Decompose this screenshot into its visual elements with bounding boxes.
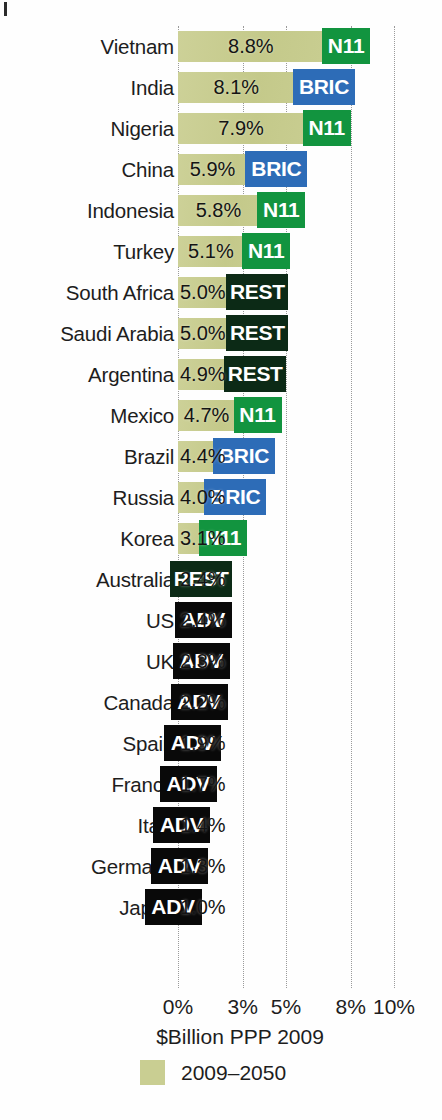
- row-label-brazil: Brazil: [124, 436, 174, 477]
- row-label-vietnam: Vietnam: [101, 26, 174, 67]
- bar-row: UKADV2.3%: [0, 641, 442, 682]
- group-tag-n11: N11: [322, 28, 370, 64]
- bar-value-label: 5.0%: [180, 277, 226, 308]
- row-label-uk: UK: [146, 641, 174, 682]
- x-tick-8pct: 8%: [336, 995, 366, 1019]
- bar-value-label: 1.9%: [180, 728, 226, 759]
- bar-row: RussiaBRIC4.0%: [0, 477, 442, 518]
- chart-legend: 2009–2050: [140, 1060, 286, 1085]
- x-tick-0pct: 0%: [163, 995, 193, 1019]
- bar-value-label: 2.4%: [180, 605, 226, 636]
- group-tag-bric: BRIC: [245, 151, 307, 187]
- row-label-china: China: [121, 149, 174, 190]
- bar-row: South AfricaREST5.0%: [0, 272, 442, 313]
- bar-row: KoreaN113.1%: [0, 518, 442, 559]
- bar-value-label: 7.9%: [218, 113, 264, 144]
- group-tag-rest: REST: [226, 274, 288, 310]
- bar-row: CanadaADV2.2%: [0, 682, 442, 723]
- bar-row: GermanyADV1.3%: [0, 846, 442, 887]
- group-tag-rest: REST: [226, 315, 288, 351]
- group-tag-bric: BRIC: [293, 69, 355, 105]
- row-label-indonesia: Indonesia: [87, 190, 174, 231]
- legend-swatch-2009-2050: [140, 1060, 165, 1085]
- bar-value-label: 2.4%: [180, 564, 226, 595]
- bar-value-label: 4.0%: [180, 482, 226, 513]
- x-axis-title: $Billion PPP 2009: [0, 1025, 442, 1049]
- row-label-australia: Australia: [96, 559, 174, 600]
- row-label-mexico: Mexico: [110, 395, 174, 436]
- bar-row: ArgentinaREST4.9%: [0, 354, 442, 395]
- bar-row: IndiaBRIC8.1%: [0, 67, 442, 108]
- row-label-us: US: [146, 600, 174, 641]
- x-tick-10pct: 10%: [373, 995, 415, 1019]
- bar-value-label: 2.3%: [180, 646, 226, 677]
- row-label-korea: Korea: [120, 518, 174, 559]
- bar-value-label: 1.0%: [180, 892, 226, 923]
- bar-row: SpainADV1.9%: [0, 723, 442, 764]
- row-label-argentina: Argentina: [88, 354, 174, 395]
- bar-row: IndonesiaN115.8%: [0, 190, 442, 231]
- bar-value-label: 1.3%: [180, 851, 226, 882]
- group-tag-rest: REST: [224, 356, 286, 392]
- bar-row: BrazilBRIC4.4%: [0, 436, 442, 477]
- bar-value-label: 4.7%: [184, 400, 230, 431]
- group-tag-n11: N11: [303, 110, 351, 146]
- bar-row: AustraliaREST2.4%: [0, 559, 442, 600]
- plot-area: VietnamN118.8%IndiaBRIC8.1%NigeriaN117.9…: [0, 26, 442, 988]
- row-label-south-africa: South Africa: [66, 272, 174, 313]
- bar-row: ChinaBRIC5.9%: [0, 149, 442, 190]
- bar-value-label: 4.4%: [180, 441, 226, 472]
- bar-row: USADV2.4%: [0, 600, 442, 641]
- bar-value-label: 8.8%: [228, 31, 274, 62]
- bar-row: NigeriaN117.9%: [0, 108, 442, 149]
- legend-label-2009-2050: 2009–2050: [181, 1061, 286, 1085]
- bar-value-label: 1.4%: [180, 810, 226, 841]
- bar-row: ItalyADV1.4%: [0, 805, 442, 846]
- group-tag-n11: N11: [242, 233, 290, 269]
- bar-row: VietnamN118.8%: [0, 26, 442, 67]
- row-label-india: India: [131, 67, 174, 108]
- row-label-turkey: Turkey: [113, 231, 174, 272]
- group-tag-n11: N11: [234, 397, 282, 433]
- bar-row: JapanADV1.0%: [0, 887, 442, 928]
- bar-value-label: 4.9%: [180, 359, 226, 390]
- row-label-canada: Canada: [103, 682, 174, 723]
- bar-row: FranceADV1.7%: [0, 764, 442, 805]
- row-label-russia: Russia: [113, 477, 174, 518]
- bar-value-label: 3.1%: [180, 523, 226, 554]
- row-label-saudi-arabia: Saudi Arabia: [60, 313, 174, 354]
- bar-value-label: 5.8%: [196, 195, 242, 226]
- bar-row: MexicoN114.7%: [0, 395, 442, 436]
- row-label-nigeria: Nigeria: [110, 108, 174, 149]
- bar-value-label: 2.2%: [180, 687, 226, 718]
- bar-value-label: 5.1%: [188, 236, 234, 267]
- group-tag-n11: N11: [257, 192, 305, 228]
- x-tick-3pct: 3%: [228, 995, 258, 1019]
- x-axis-tick-labels: 0%3%5%8%10%: [0, 995, 442, 1023]
- bar-value-label: 5.9%: [190, 154, 236, 185]
- bar-chart: VietnamN118.8%IndiaBRIC8.1%NigeriaN117.9…: [0, 0, 442, 1120]
- bar-value-label: 8.1%: [213, 72, 259, 103]
- bar-row: Saudi ArabiaREST5.0%: [0, 313, 442, 354]
- x-tick-5pct: 5%: [271, 995, 301, 1019]
- bar-value-label: 5.0%: [180, 318, 226, 349]
- bar-value-label: 1.7%: [180, 769, 226, 800]
- bar-row: TurkeyN115.1%: [0, 231, 442, 272]
